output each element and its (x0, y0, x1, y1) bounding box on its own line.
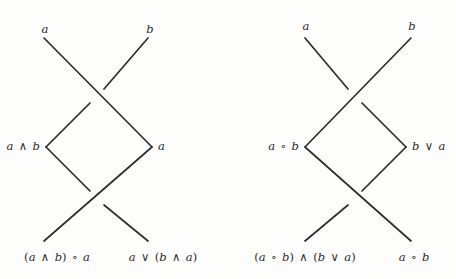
braid-diagrams-svg (0, 0, 456, 279)
left-strand-over-upper (44, 38, 152, 147)
right-label-middle-left: a ∘ b (268, 141, 299, 153)
left-strand-under-upper-upper-piece (104, 38, 148, 89)
left-diagram-strands (44, 38, 152, 241)
left-label-bottom-left: (a ∧ b) ∘ a (24, 252, 90, 264)
figure-canvas: a b a ∧ b a (a ∧ b) ∘ a a ∨ (b ∧ a) a b … (0, 0, 456, 279)
right-strand-over-upper (305, 38, 411, 147)
left-label-top-left: a (42, 24, 49, 36)
left-label-top-right: b (146, 24, 153, 36)
right-label-bottom-left: (a ∘ b) ∧ (b ∨ a) (254, 252, 356, 264)
right-diagram-strands (305, 38, 411, 241)
left-strand-under-upper-lower-piece (46, 103, 90, 147)
right-label-middle-right: b ∨ a (412, 141, 445, 153)
left-label-middle-right: a (158, 141, 165, 153)
left-strand-under-lower-lower-piece (104, 205, 148, 241)
left-label-bottom-right: a ∨ (b ∧ a) (129, 252, 198, 264)
right-strand-under-upper-upper-piece (305, 38, 348, 89)
left-strand-under-lower-upper-piece (46, 147, 90, 191)
right-strand-under-upper-lower-piece (362, 103, 406, 147)
right-label-top-left: a (303, 21, 310, 33)
right-strand-under-lower-upper-piece (362, 147, 406, 191)
left-label-middle-left: a ∧ b (7, 141, 40, 153)
right-strand-under-lower-lower-piece (305, 205, 348, 241)
right-label-top-right: b (408, 21, 415, 33)
right-label-bottom-right: a ∘ b (399, 252, 430, 264)
